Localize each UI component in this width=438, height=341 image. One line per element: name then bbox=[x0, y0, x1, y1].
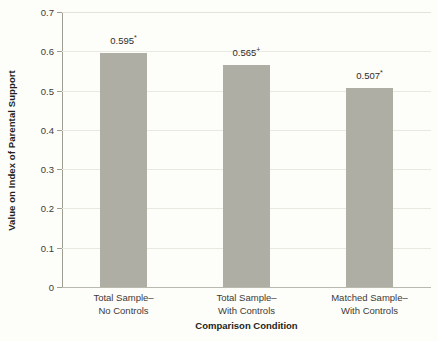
bar bbox=[346, 88, 393, 287]
y-axis-tick-label: 0.1 bbox=[41, 242, 54, 253]
x-axis-category-label: Total Sample–With Controls bbox=[216, 292, 276, 317]
x-axis-category-line: Total Sample– bbox=[216, 292, 276, 305]
x-axis-title: Comparison Condition bbox=[62, 320, 431, 331]
bar-value-label: 0.595* bbox=[110, 35, 137, 46]
bar-value-label: 0.565+ bbox=[233, 47, 261, 58]
y-axis-tick-label: 0.7 bbox=[41, 7, 54, 18]
significance-mark: * bbox=[134, 34, 137, 41]
x-axis-category-line: With Controls bbox=[331, 305, 408, 318]
bar-value-label: 0.507* bbox=[356, 70, 383, 81]
gridline bbox=[62, 287, 431, 288]
significance-mark: * bbox=[380, 69, 383, 76]
y-axis-tick-label: 0 bbox=[49, 282, 54, 293]
y-axis-tick-label: 0.6 bbox=[41, 46, 54, 57]
y-axis-title-text: Value on Index of Parental Support bbox=[6, 70, 17, 231]
y-axis-tick-label: 0.2 bbox=[41, 203, 54, 214]
y-axis-tick bbox=[57, 130, 62, 131]
y-axis-tick-label: 0.4 bbox=[41, 124, 54, 135]
y-axis-tick bbox=[57, 91, 62, 92]
bar bbox=[223, 65, 270, 287]
x-axis-category-label: Total Sample–No Controls bbox=[93, 292, 153, 317]
y-axis-tick-label: 0.3 bbox=[41, 164, 54, 175]
bar bbox=[100, 53, 147, 287]
gridline bbox=[62, 12, 431, 13]
y-axis-tick bbox=[57, 12, 62, 13]
x-axis-category-line: With Controls bbox=[216, 305, 276, 318]
x-axis-category-label: Matched Sample–With Controls bbox=[331, 292, 408, 317]
y-axis-tick bbox=[57, 287, 62, 288]
y-axis-title: Value on Index of Parental Support bbox=[0, 0, 22, 300]
x-axis-category-line: Total Sample– bbox=[93, 292, 153, 305]
bar-chart: Value on Index of Parental Support 00.10… bbox=[0, 0, 438, 341]
y-axis-tick bbox=[57, 51, 62, 52]
x-axis-category-line: Matched Sample– bbox=[331, 292, 408, 305]
y-axis-tick bbox=[57, 208, 62, 209]
y-axis-tick bbox=[57, 248, 62, 249]
plot-area: 00.10.20.30.40.50.60.70.595*0.565+0.507* bbox=[62, 12, 431, 287]
significance-mark: + bbox=[256, 46, 260, 53]
y-axis-tick bbox=[57, 169, 62, 170]
x-axis-category-line: No Controls bbox=[93, 305, 153, 318]
y-axis-tick-label: 0.5 bbox=[41, 85, 54, 96]
